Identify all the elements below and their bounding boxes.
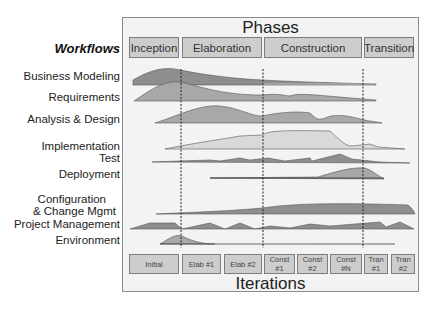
iteration-tran-1: Tran #1: [364, 254, 388, 274]
iteration-tran-2: Tran #2: [391, 254, 415, 274]
iteration-const-2: Const #2: [297, 254, 328, 274]
iteration-elab-2: Elab #2: [224, 254, 262, 274]
iterations-title: Iterations: [122, 274, 419, 294]
iteration-elab-1: Elab #1: [182, 254, 221, 274]
iteration-const-1: Const #1: [264, 254, 295, 274]
iteration-const-n: Const #N: [330, 254, 362, 274]
iteration-initial: Initial: [129, 254, 179, 274]
